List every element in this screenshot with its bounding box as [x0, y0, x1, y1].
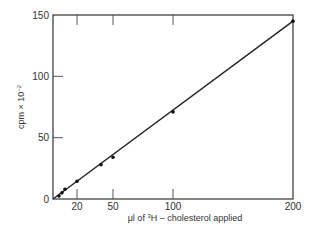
- tick-labels: 2050100200050100150: [32, 10, 301, 213]
- x-tick-label: 100: [165, 201, 182, 212]
- x-axis-label: μl of 3H – cholesterol applied: [128, 213, 243, 223]
- y-tick-label: 0: [43, 194, 49, 205]
- data-point: [63, 187, 67, 191]
- y-tick-label: 150: [32, 10, 49, 21]
- axis-ticks: [53, 15, 173, 199]
- data-point: [75, 179, 79, 183]
- x-tick-label: 50: [107, 201, 119, 212]
- x-tick-label: 200: [285, 201, 302, 212]
- data-point: [111, 155, 115, 159]
- chart: 2050100200050100150 μl of 3H – cholester…: [0, 0, 320, 235]
- data-point: [171, 110, 175, 114]
- y-tick-label: 100: [32, 71, 49, 82]
- fit-line: [53, 21, 293, 199]
- y-axis-label: cpm × 10−2: [16, 84, 26, 129]
- y-tick-label: 50: [38, 132, 50, 143]
- data-point: [60, 191, 64, 195]
- data-point: [57, 194, 61, 198]
- data-point: [291, 19, 295, 23]
- x-tick-label: 20: [71, 201, 83, 212]
- data-point: [99, 163, 103, 167]
- plot-frame: [53, 15, 293, 199]
